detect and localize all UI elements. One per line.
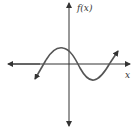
y-axis-label: f(x) <box>77 4 92 13</box>
graph-svg <box>0 0 135 127</box>
function-graph: f(x) x <box>0 0 135 127</box>
curve-left-arrow <box>35 60 46 79</box>
x-axis-label: x <box>125 71 130 80</box>
curve-right-arrow <box>110 51 118 63</box>
